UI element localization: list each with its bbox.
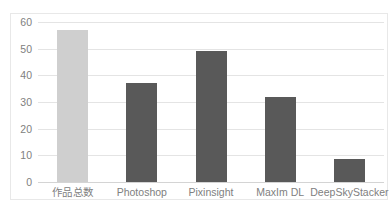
bar (334, 159, 365, 182)
x-axis-labels: 作品总数PhotoshopPixinsightMaxIm DLDeepSkySt… (38, 186, 384, 208)
bar-series (38, 22, 384, 182)
bar (265, 97, 296, 182)
bar (126, 83, 157, 182)
x-axis-tick-label: MaxIm DL (256, 186, 304, 199)
bar (196, 51, 227, 182)
y-axis-tick-label: 50 (20, 43, 32, 54)
x-axis-tick-label: DeepSkyStacker (310, 186, 388, 199)
plot-area: 0102030405060 (38, 22, 384, 182)
bar (57, 30, 88, 182)
y-axis-tick-label: 60 (20, 17, 32, 28)
x-axis-tick-label: Pixinsight (189, 186, 234, 199)
gridline (38, 182, 384, 183)
x-axis-tick-label: 作品总数 (52, 186, 94, 199)
bar-chart: 0102030405060 作品总数PhotoshopPixinsightMax… (0, 0, 392, 214)
y-axis-tick-label: 20 (20, 123, 32, 134)
x-axis-tick-label: Photoshop (117, 186, 167, 199)
y-axis-tick-label: 0 (26, 177, 32, 188)
y-axis-tick-label: 40 (20, 70, 32, 81)
y-axis-tick-label: 10 (20, 150, 32, 161)
y-axis-tick-label: 30 (20, 97, 32, 108)
